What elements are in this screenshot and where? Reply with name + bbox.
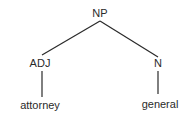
edge-np-n xyxy=(100,21,158,57)
edge-np-adj xyxy=(42,21,100,55)
leaf-general: general xyxy=(142,98,179,110)
leaf-attorney: attorney xyxy=(20,99,60,111)
node-n: N xyxy=(154,57,162,69)
node-adj: ADJ xyxy=(30,57,51,69)
node-np: NP xyxy=(92,7,107,19)
